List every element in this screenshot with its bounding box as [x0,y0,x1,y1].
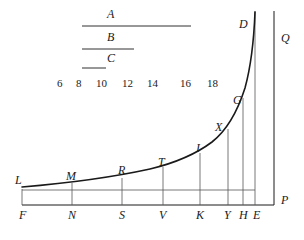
base-point-label-V: V [159,209,166,221]
scale-number-16: 16 [180,78,191,89]
scale-number-14: 14 [147,78,158,89]
axis-end-label-P: P [281,194,288,206]
curve-point-label-R: R [118,164,125,176]
base-point-label-K: K [196,209,204,221]
scale-number-18: 18 [207,78,218,89]
bracket-label-B: B [107,31,114,43]
ordinate-lines [72,98,243,205]
base-point-label-F: F [19,209,26,221]
curve-point-label-G: G [233,94,242,106]
scale-number-12: 12 [122,78,133,89]
bracket-label-A: A [107,8,114,20]
bracket-label-C: C [107,52,115,64]
exponential-curve [22,12,255,187]
scale-number-10: 10 [96,78,107,89]
curve-point-label-M: M [66,170,76,182]
base-point-label-S: S [119,209,125,221]
curve-point-label-T: T [158,156,165,168]
axis-frame [22,11,274,205]
figure-root: A B C 6 8 10 12 14 16 18 L M R T I X G D… [0,0,304,240]
curve-point-label-X: X [215,121,222,133]
top-bracket-rules [82,26,191,68]
curve-point-label-D: D [239,18,248,30]
figure-canvas [0,0,304,240]
scale-number-8: 8 [76,78,82,89]
scale-number-6: 6 [57,78,63,89]
base-point-label-Y: Y [224,209,231,221]
curve-point-label-L: L [15,174,22,186]
base-point-label-N: N [68,209,76,221]
base-point-label-H: H [239,209,248,221]
base-point-label-E: E [253,209,260,221]
axis-end-label-Q: Q [281,32,290,44]
curve-point-label-I: I [196,142,200,154]
